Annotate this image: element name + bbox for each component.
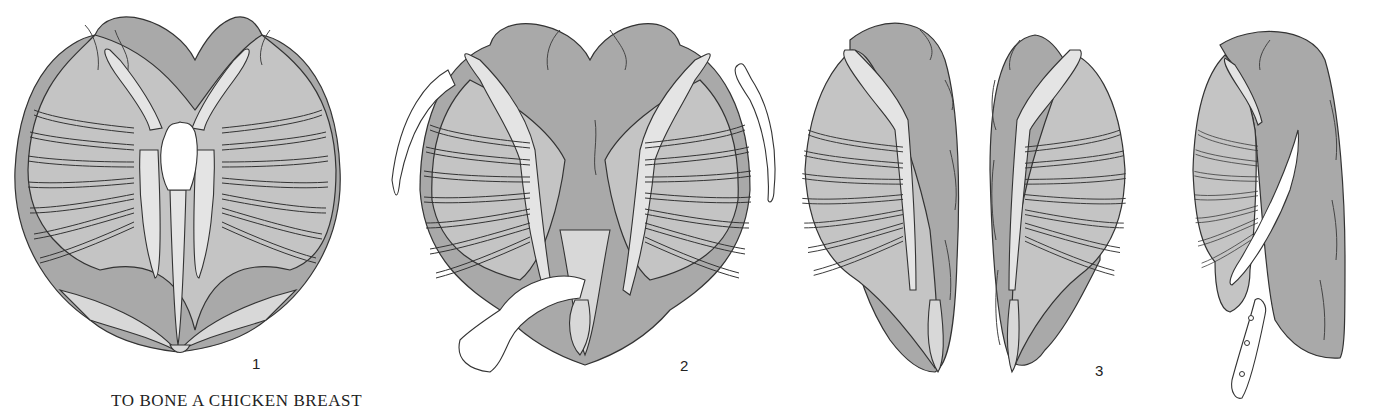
figure-4 xyxy=(1193,31,1345,398)
figure-2 xyxy=(392,24,775,372)
step-label-3: 3 xyxy=(1095,362,1103,379)
step-label-2: 2 xyxy=(680,357,688,374)
figure-3b xyxy=(990,35,1126,372)
illustration xyxy=(0,0,1387,410)
figure-1 xyxy=(15,17,340,353)
caption: TO BONE A CHICKEN BREAST xyxy=(111,391,362,410)
figure-3a xyxy=(802,23,958,372)
step-label-1: 1 xyxy=(252,355,260,372)
